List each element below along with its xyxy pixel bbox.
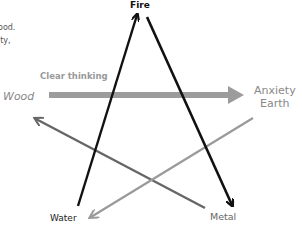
arrow-wood-to-earth	[49, 86, 244, 104]
arrow-earth-to-water	[91, 118, 253, 217]
node-wood: Wood	[3, 90, 34, 103]
cycle-diagram	[0, 0, 302, 230]
node-anxiety-label: Anxiety	[254, 84, 296, 97]
arrow-fire-to-metal	[147, 17, 232, 205]
node-fire: Fire	[130, 0, 150, 10]
node-earth-label: Earth	[254, 97, 296, 110]
edge-label-clear-thinking: Clear thinking	[40, 71, 108, 81]
node-earth: Anxiety Earth	[254, 84, 296, 110]
node-water: Water	[50, 213, 77, 223]
arrow-water-to-fire	[78, 15, 137, 206]
node-metal: Metal	[210, 211, 236, 222]
